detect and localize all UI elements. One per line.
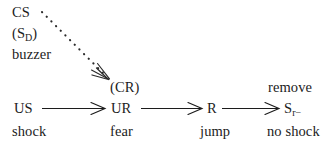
sd-open-paren: (S [12, 25, 25, 41]
arrow-r-to-sr [222, 103, 279, 115]
conditioning-flow-diagram: CS (SD) buzzer (CR) remove US UR R Sr− s… [0, 0, 334, 145]
cr-annotation: (CR) [110, 80, 139, 95]
outcome-fear: fear [110, 124, 133, 139]
node-us: US [14, 101, 33, 116]
cs-label: CS [12, 5, 30, 20]
outcome-no-shock: no shock [267, 124, 320, 139]
remove-annotation: remove [268, 80, 312, 95]
buzzer-label: buzzer [12, 47, 51, 62]
arrow-ur-to-r [141, 103, 202, 115]
dotted-arrow-cs-to-cr [42, 12, 110, 80]
node-sr: Sr− [284, 101, 301, 118]
outcome-shock: shock [12, 124, 46, 139]
sd-label: (SD) [12, 26, 37, 43]
sr-base: S [284, 100, 292, 116]
outcome-jump: jump [200, 124, 230, 139]
node-r: R [207, 101, 217, 116]
arrow-us-to-ur [42, 103, 105, 115]
node-ur: UR [111, 101, 131, 116]
sd-close-paren: ) [32, 25, 37, 41]
sr-subscript: r− [292, 107, 301, 118]
